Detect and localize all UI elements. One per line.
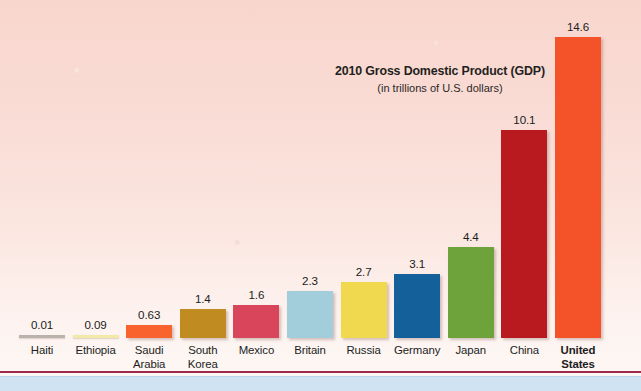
chart-title-block: 2010 Gross Domestic Product (GDP) (in tr… <box>318 64 562 96</box>
bar-china <box>501 130 547 338</box>
bar-value-label-united-states: 14.6 <box>546 20 610 33</box>
bar-haiti <box>19 335 65 338</box>
bar-value-label-germany: 3.1 <box>385 257 449 270</box>
bar-japan <box>448 247 494 338</box>
bar-britain <box>287 291 333 338</box>
footer-strip-top-edge <box>0 376 641 377</box>
category-label-united-states: UnitedStates <box>541 344 615 371</box>
bar-ethiopia <box>73 335 119 338</box>
bar-value-label-china: 10.1 <box>492 113 556 126</box>
chart-plot-area: 0.010.090.631.41.62.32.73.14.410.114.6 <box>0 0 641 338</box>
chart-subtitle: (in trillions of U.S. dollars) <box>318 81 562 96</box>
bar-germany <box>394 274 440 338</box>
category-label-line1: United <box>541 344 615 358</box>
bar-value-label-saudi-arabia: 0.63 <box>117 308 181 321</box>
chart-title: 2010 Gross Domestic Product (GDP) <box>318 64 562 79</box>
bar-mexico <box>233 305 279 338</box>
footer-strip <box>0 376 641 391</box>
bar-south-korea <box>180 309 226 338</box>
category-label-line2: States <box>541 358 615 372</box>
bar-russia <box>341 282 387 338</box>
bar-value-label-japan: 4.4 <box>439 230 503 243</box>
bar-saudi-arabia <box>126 325 172 338</box>
bar-value-label-mexico: 1.6 <box>224 288 288 301</box>
category-label-line2: Korea <box>166 358 240 372</box>
gdp-bar-chart-figure: 2010 Gross Domestic Product (GDP) (in tr… <box>0 0 641 391</box>
